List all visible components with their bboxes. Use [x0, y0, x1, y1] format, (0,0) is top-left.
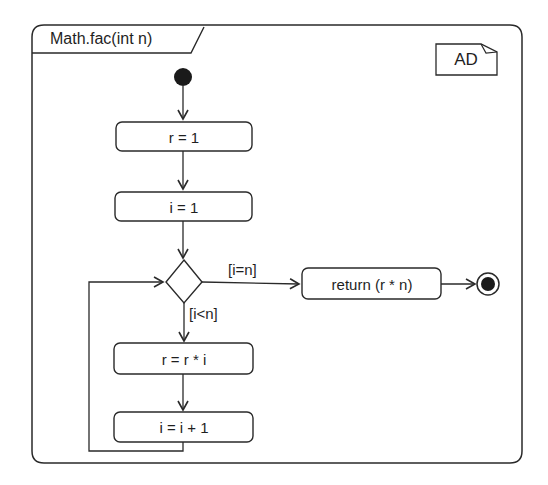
action-r-mult-label: r = r * i — [162, 351, 207, 368]
activity-diagram-canvas — [0, 0, 548, 485]
diagram-frame — [32, 25, 522, 463]
action-i-inc-label: i = i + 1 — [159, 419, 208, 436]
action-i-init-label: i = 1 — [170, 199, 199, 216]
frame-title: Math.fac(int n) — [50, 30, 152, 48]
initial-node — [174, 68, 192, 86]
guard-eq-label: [i=n] — [228, 261, 257, 278]
frame-tag: AD — [454, 50, 478, 70]
action-return-label: return (r * n) — [332, 276, 413, 293]
decision-node — [166, 260, 202, 303]
guard-lt-label: [i<n] — [189, 305, 218, 322]
action-r-init-label: r = 1 — [169, 129, 199, 146]
